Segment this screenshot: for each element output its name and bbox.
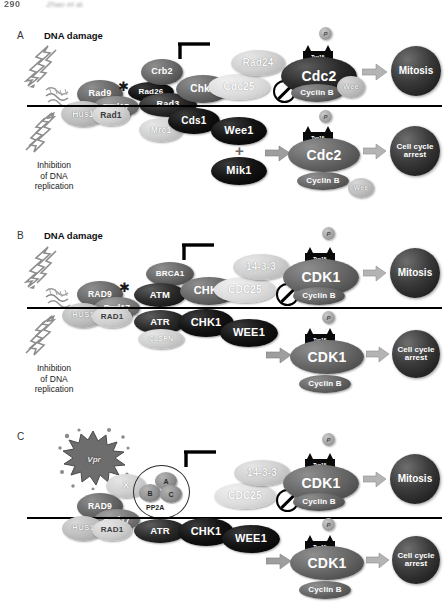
inhibition-tbar-b bbox=[181, 241, 217, 263]
damage-star-icon-b: ✱ bbox=[119, 281, 130, 294]
pp2a-complex-label: PP2A bbox=[146, 504, 164, 511]
plus-sign-a: + bbox=[235, 143, 244, 158]
protein-cyclinb-b-upper[interactable]: Cyclin B bbox=[293, 287, 345, 305]
outcome-mitosis-c[interactable]: Mitosis bbox=[390, 454, 440, 504]
protein-wee1-c[interactable]: WEE1 bbox=[222, 525, 280, 553]
panel-a-title: DNA damage bbox=[44, 30, 103, 41]
protein-cdc2-a-lower[interactable]: Cdc2 bbox=[288, 138, 360, 172]
protein-cyclinb-b-lower[interactable]: Cyclin B bbox=[299, 375, 351, 393]
panel-a: A DNA damage bbox=[0, 0, 448, 215]
phospho-mark-b-upper: P bbox=[322, 227, 335, 240]
pp2a-subunit-c[interactable]: C bbox=[160, 485, 182, 503]
protein-wee-a-lower[interactable]: Wee bbox=[348, 178, 374, 198]
flow-arrow-a-lower-2 bbox=[363, 143, 387, 160]
panel-c-label: C bbox=[17, 431, 24, 442]
flow-arrow-b-lower-1 bbox=[266, 347, 292, 364]
pp2a-subunit-b[interactable]: B bbox=[139, 484, 161, 502]
replication-block-arrow-icon-a bbox=[22, 112, 60, 154]
panel-a-divider bbox=[27, 105, 442, 107]
protein-atm-b[interactable]: ATM bbox=[134, 283, 186, 307]
caption-line: replication bbox=[10, 181, 98, 192]
phospho-mark-a-lower: P bbox=[319, 110, 332, 123]
caption-line: Inhibition bbox=[10, 160, 98, 171]
outcome-arrest-a[interactable]: Cell cycle arrest bbox=[390, 126, 440, 176]
outcome-mitosis-b[interactable]: Mitosis bbox=[390, 248, 440, 298]
protein-1433-c[interactable]: 14-3-3 bbox=[234, 460, 290, 486]
panel-b-title: DNA damage bbox=[44, 230, 103, 241]
phospho-mark-c-upper: P bbox=[322, 433, 335, 446]
protein-cyclinb-c-upper[interactable]: Cyclin B bbox=[293, 493, 345, 511]
outcome-line: arrest bbox=[405, 353, 427, 362]
protein-cdk1-b-lower[interactable]: CDK1 bbox=[290, 340, 364, 374]
caption-line: Inhibition bbox=[10, 363, 98, 374]
dna-damage-arrow-icon bbox=[22, 44, 62, 88]
flow-arrow-b-lower-2 bbox=[366, 346, 390, 363]
panel-c: C Vpr X A B bbox=[0, 415, 448, 604]
protein-rad1-c[interactable]: RAD1 bbox=[92, 519, 132, 541]
protein-rad24-a[interactable]: Rad24 bbox=[231, 50, 285, 76]
flow-arrow-b-upper-2 bbox=[363, 265, 387, 282]
protein-cyclinb-a-lower[interactable]: Cyclin B bbox=[297, 172, 349, 190]
protein-clspn-b[interactable]: CLSPN bbox=[138, 329, 184, 349]
phospho-mark-b-lower: P bbox=[322, 311, 335, 324]
protein-cdc25-a[interactable]: Cdc25 bbox=[208, 74, 270, 100]
dna-damage-arrow-icon-b bbox=[22, 245, 62, 289]
caption-line: of DNA bbox=[10, 374, 98, 385]
panel-a-label: A bbox=[17, 30, 24, 41]
replication-block-arrow-icon-b bbox=[22, 315, 60, 357]
protein-wee1-a[interactable]: Wee1 bbox=[211, 117, 267, 145]
protein-cdk1-c-lower[interactable]: CDK1 bbox=[290, 546, 364, 580]
protein-1433-b[interactable]: 14-3-3 bbox=[233, 254, 289, 280]
caption-inhibition-a: Inhibition of DNA replication bbox=[10, 160, 98, 192]
outcome-arrest-b[interactable]: Cell cycle arrest bbox=[392, 330, 440, 378]
protein-cdc25-b[interactable]: CDC25 bbox=[214, 277, 276, 303]
protein-wee1-b[interactable]: WEE1 bbox=[220, 319, 278, 347]
protein-rad1-b[interactable]: RAD1 bbox=[92, 306, 132, 328]
panel-b-divider bbox=[27, 307, 442, 309]
inhibition-tbar-a bbox=[177, 40, 213, 62]
protein-mik1-a[interactable]: Mik1 bbox=[211, 157, 267, 185]
protein-cyclinb-c-lower[interactable]: Cyclin B bbox=[299, 581, 351, 599]
outcome-arrest-c[interactable]: Cell cycle arrest bbox=[392, 536, 440, 584]
panel-b-label: B bbox=[17, 230, 24, 241]
flow-arrow-c-lower-2 bbox=[366, 552, 390, 569]
flow-arrow-c-upper-2 bbox=[363, 471, 387, 488]
caption-inhibition-b: Inhibition of DNA replication bbox=[10, 363, 98, 395]
caption-line: replication bbox=[10, 384, 98, 395]
figure-canvas: 290 Zhao et al. A DNA damage bbox=[0, 0, 448, 604]
protein-wee-a-upper[interactable]: Wee bbox=[337, 76, 365, 98]
flow-arrow-c-lower-1 bbox=[266, 553, 292, 570]
protein-rad1-a[interactable]: Rad1 bbox=[92, 104, 130, 126]
protein-cyclinb-a-upper[interactable]: Cyclin B bbox=[291, 84, 343, 102]
protein-crb2-a[interactable]: Crb2 bbox=[141, 59, 183, 85]
phospho-mark-c-lower: P bbox=[322, 518, 335, 531]
outcome-line: arrest bbox=[405, 559, 427, 568]
flow-arrow-a-upper-2 bbox=[362, 63, 388, 81]
inhibition-tbar-c bbox=[183, 448, 219, 470]
caption-line: of DNA bbox=[10, 171, 98, 182]
panel-b: B DNA damage RAD9 bbox=[0, 215, 448, 415]
outcome-line: arrest bbox=[404, 150, 426, 159]
phospho-mark-a-upper: P bbox=[319, 27, 332, 40]
outcome-mitosis-a[interactable]: Mitosis bbox=[391, 46, 441, 96]
protein-cdc25-c[interactable]: CDC25 bbox=[214, 483, 276, 509]
